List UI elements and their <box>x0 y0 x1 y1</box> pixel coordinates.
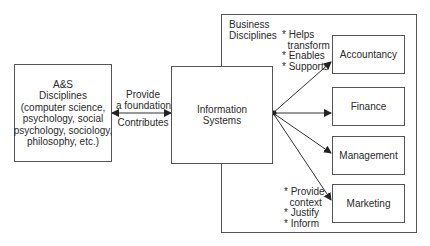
business-disciplines-title: Business Disciplines <box>229 19 277 41</box>
as-disciplines-label: A&S Disciplines (computer science, psych… <box>14 79 113 148</box>
information-systems-box: Information Systems <box>171 66 273 164</box>
provide-foundation-label: Provide a foundation <box>116 89 170 111</box>
management-box: Management <box>332 136 405 175</box>
accountancy-label: Accountancy <box>340 49 397 61</box>
finance-label: Finance <box>351 101 387 113</box>
top-annotations: * Helps transform * Enables * Supports <box>282 30 330 72</box>
marketing-label: Marketing <box>347 198 391 210</box>
finance-box: Finance <box>332 87 405 126</box>
contributes-label: Contributes <box>116 117 170 128</box>
bottom-annotations: * Provide context * Justify * Inform <box>284 187 325 229</box>
management-label: Management <box>339 150 397 162</box>
marketing-box: Marketing <box>332 184 405 223</box>
information-systems-label: Information Systems <box>197 104 247 127</box>
accountancy-box: Accountancy <box>332 35 405 74</box>
as-disciplines-box: A&S Disciplines (computer science, psych… <box>14 64 112 162</box>
